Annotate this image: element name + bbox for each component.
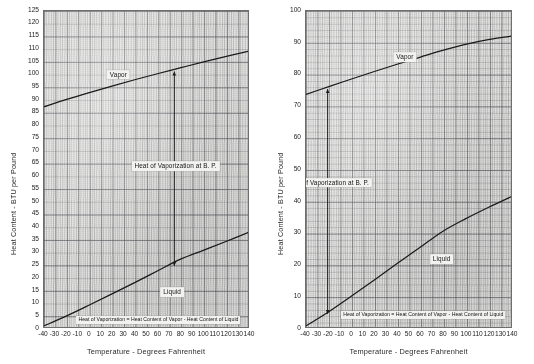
plot-area-right: Vapor Liquid Heat of Vaporization at B. … xyxy=(305,10,512,328)
y-tick-label: 40 xyxy=(19,223,39,230)
y-tick-label: 75 xyxy=(19,134,39,141)
y-tick-label: 65 xyxy=(19,159,39,166)
y-tick-label: 85 xyxy=(19,108,39,115)
series-label-vapor-left: Vapor xyxy=(107,70,130,80)
x-tick-label: 140 xyxy=(240,331,258,338)
y-tick-label: 70 xyxy=(281,102,301,109)
annotation-heat-of-vaporization-left: Heat of Vaporization at B. P. xyxy=(131,161,219,171)
annotation-definition-note-left: Heat of Vaporization = Heat Content of V… xyxy=(76,316,240,324)
y-tick-label: 40 xyxy=(281,198,301,205)
y-tick-label: 50 xyxy=(281,166,301,173)
y-tick-label: 55 xyxy=(19,185,39,192)
y-axis-label-left: Heat Content - BTU per Pound xyxy=(9,153,18,255)
annotation-arrowhead xyxy=(173,262,177,266)
y-tick-label: 80 xyxy=(19,121,39,128)
y-tick-label: 30 xyxy=(281,229,301,236)
y-tick-label: 90 xyxy=(281,39,301,46)
y-tick-label: 105 xyxy=(19,58,39,65)
x-axis-label-left: Temperature - Degrees Fahrenheit xyxy=(43,347,249,356)
y-tick-label: 15 xyxy=(19,287,39,294)
series-label-vapor-right: Vapor xyxy=(393,52,416,62)
y-tick-label: 20 xyxy=(19,274,39,281)
chart-panel-right: Heat Content - BTU per Pound Vapor Liqui… xyxy=(267,0,534,364)
plot-area-left: Vapor Liquid Heat of Vaporization at B. … xyxy=(43,10,249,328)
two-panel-figure: Heat Content - BTU per Pound Vapor Liqui… xyxy=(0,0,534,364)
annotation-arrowhead xyxy=(326,89,330,93)
series-curve-vapor xyxy=(306,36,511,94)
y-tick-label: 10 xyxy=(19,299,39,306)
chart-panel-left: Heat Content - BTU per Pound Vapor Liqui… xyxy=(0,0,267,364)
y-tick-label: 100 xyxy=(19,70,39,77)
series-label-liquid-left: Liquid xyxy=(160,287,184,297)
y-tick-label: 50 xyxy=(19,198,39,205)
y-tick-label: 35 xyxy=(19,236,39,243)
series-label-liquid-right: Liquid xyxy=(430,254,454,264)
y-tick-label: 80 xyxy=(281,70,301,77)
y-tick-label: 60 xyxy=(281,134,301,141)
y-tick-label: 115 xyxy=(19,32,39,39)
y-tick-label: 90 xyxy=(19,96,39,103)
annotation-heat-of-vaporization-right: Heat of Vaporization at B. P. xyxy=(305,178,372,188)
y-tick-label: 120 xyxy=(19,19,39,26)
annotation-definition-note-right: Heat of Vaporization = Heat Content of V… xyxy=(341,311,505,319)
y-tick-label: 10 xyxy=(281,293,301,300)
y-tick-label: 25 xyxy=(19,261,39,268)
series-curve-liquid xyxy=(306,197,511,326)
y-tick-label: 70 xyxy=(19,147,39,154)
y-tick-label: 125 xyxy=(19,7,39,14)
annotation-arrowhead xyxy=(173,71,177,75)
y-tick-label: 5 xyxy=(19,312,39,319)
y-tick-label: 45 xyxy=(19,210,39,217)
y-tick-label: 20 xyxy=(281,261,301,268)
series-curve-liquid xyxy=(44,233,248,326)
y-tick-label: 30 xyxy=(19,248,39,255)
y-tick-label: 95 xyxy=(19,83,39,90)
y-tick-label: 100 xyxy=(281,7,301,14)
x-axis-label-right: Temperature - Degrees Fahrenheit xyxy=(305,347,512,356)
series-curve-vapor xyxy=(44,51,248,106)
y-tick-label: 60 xyxy=(19,172,39,179)
x-tick-label: 140 xyxy=(503,331,521,338)
y-tick-label: 110 xyxy=(19,45,39,52)
